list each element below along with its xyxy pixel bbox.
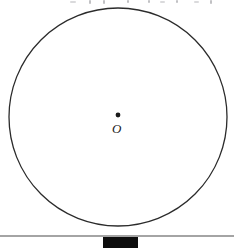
block-group: [103, 237, 138, 248]
top-text-fragment: [103, 0, 105, 4]
top-text-fragment: [89, 0, 91, 4]
top-text-fragment: [210, 0, 212, 4]
top-text-fragment: [148, 0, 150, 3]
top-text-fragment: [160, 1, 165, 3]
block: [103, 237, 138, 248]
top-text-fragment: [176, 0, 178, 3]
top-text-fragment: [194, 1, 199, 3]
center-dot: [116, 113, 121, 118]
figure-canvas: O: [0, 0, 234, 249]
top-text-fragment: [70, 1, 76, 3]
top-text-fragment: [127, 0, 129, 3]
center-point-group: [116, 113, 121, 118]
center-label: O: [112, 122, 121, 135]
